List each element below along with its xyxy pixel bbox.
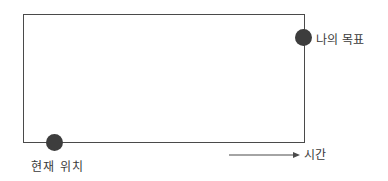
time-axis-label: 시간 <box>304 145 326 162</box>
time-arrow-icon <box>229 151 301 159</box>
goal-label: 나의 목표 <box>316 30 364 47</box>
current-position-marker <box>46 134 63 151</box>
goal-marker <box>295 29 312 46</box>
current-position-label: 현재 위치 <box>31 157 84 174</box>
path-rectangle <box>23 14 305 143</box>
